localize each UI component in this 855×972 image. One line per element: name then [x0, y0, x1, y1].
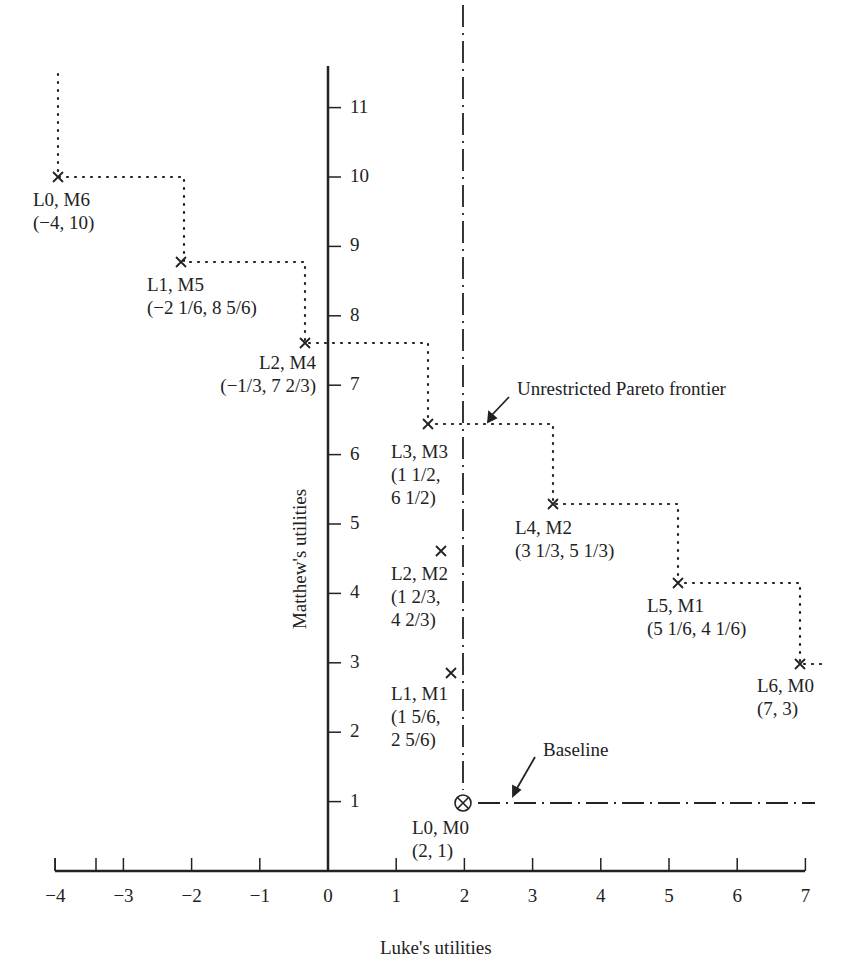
pareto-frontier-annotation: Unrestricted Pareto frontier — [517, 377, 726, 400]
x-tick-label: 2 — [454, 885, 474, 907]
point-label-l6-m0: L6, M0 (7, 3) — [757, 674, 814, 720]
y-tick-label: 7 — [350, 373, 360, 395]
x-tick-label: −2 — [182, 885, 202, 907]
baseline-annotation: Baseline — [543, 738, 608, 761]
point-label-l0-m6: L0, M6 (−4, 10) — [33, 188, 94, 234]
y-tick-label: 2 — [350, 720, 360, 742]
y-tick-label: 5 — [350, 512, 360, 534]
point-label-l2-m4: L2, M4 (−1/3, 7 2/3) — [200, 351, 316, 397]
y-tick-label: 11 — [350, 96, 368, 118]
point-marker — [436, 546, 446, 556]
x-tick-label: 5 — [659, 885, 679, 907]
x-axis-title: Luke's utilities — [380, 937, 492, 959]
x-tick-label: 0 — [318, 885, 338, 907]
baseline-point-marker — [455, 795, 471, 811]
y-tick-label: 10 — [350, 165, 369, 187]
x-tick-label: 1 — [386, 885, 406, 907]
point-label-l1-m1: L1, M1 (1 5/6, 2 5/6) — [391, 682, 448, 751]
x-tick-label: 6 — [727, 885, 747, 907]
point-marker — [176, 257, 186, 267]
x-tick-label: 3 — [523, 885, 543, 907]
x-tick-label: −3 — [113, 885, 133, 907]
point-marker — [53, 172, 63, 182]
x-tick-label: 4 — [591, 885, 611, 907]
y-tick-label: 8 — [350, 304, 360, 326]
point-label-l0-m0: L0, M0 (2, 1) — [412, 816, 469, 862]
point-marker — [423, 419, 433, 429]
point-label-l2-m2: L2, M2 (1 2/3, 4 2/3) — [391, 562, 448, 631]
y-tick-label: 4 — [350, 581, 360, 603]
x-tick-label: −4 — [45, 885, 65, 907]
y-tick-label: 9 — [350, 234, 360, 256]
x-tick-label: 7 — [795, 885, 815, 907]
pareto-arrow — [490, 397, 509, 417]
x-tick-label: −1 — [250, 885, 270, 907]
y-tick-label: 6 — [350, 443, 360, 465]
point-marker — [673, 578, 683, 588]
point-label-l5-m1: L5, M1 (5 1/6, 4 1/6) — [647, 594, 746, 640]
y-tick-label: 1 — [350, 790, 360, 812]
point-label-l3-m3: L3, M3 (1 1/2, 6 1/2) — [391, 440, 448, 509]
y-axis-title: Matthew's utilities — [289, 449, 311, 669]
point-label-l1-m5: L1, M5 (−2 1/6, 8 5/6) — [147, 273, 257, 319]
y-tick-label: 3 — [350, 651, 360, 673]
point-label-l4-m2: L4, M2 (3 1/3, 5 1/3) — [515, 516, 614, 562]
point-marker — [446, 668, 456, 678]
baseline-arrow — [516, 757, 535, 790]
